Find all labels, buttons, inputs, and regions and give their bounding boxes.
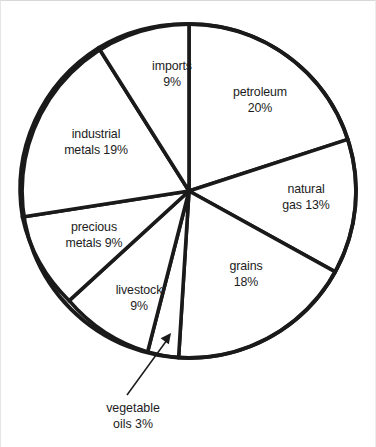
pie-label-vegetable-oils: vegetable oils 3%	[77, 401, 189, 433]
pie-label-livestock: livestock 9%	[90, 283, 188, 315]
pie-label-petroleum: petroleum 20%	[205, 85, 315, 117]
pie-label-industrial-metals: industrial metals 19%	[38, 127, 154, 159]
pie-label-natural-gas: natural gas 13%	[256, 182, 356, 214]
pie-label-grains: grains 18%	[199, 259, 293, 291]
pie-chart-figure: petroleum 20% natural gas 13% grains 18%…	[0, 0, 376, 447]
pie-label-imports: imports 9%	[127, 59, 217, 91]
pie-label-precious-metals: precious metals 9%	[39, 220, 149, 252]
